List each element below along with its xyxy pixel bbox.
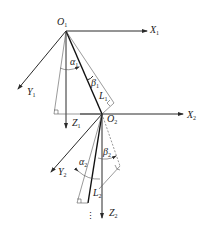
l1-offset-line [66, 31, 114, 103]
frame-1 [18, 31, 147, 128]
label-z1: Z1 [72, 117, 81, 129]
label-x2: X2 [186, 109, 196, 121]
right-angle-marker-2b [115, 165, 120, 170]
label-l1: L1 [98, 90, 108, 102]
label-y2: Y2 [58, 166, 67, 178]
label-x1: X1 [149, 24, 159, 36]
alpha2-arc [78, 171, 100, 179]
label-o1: O1 [57, 16, 67, 28]
label-alpha2: α2 [79, 156, 87, 168]
label-l2: L2 [92, 187, 102, 199]
continuation-dots: ⋮ [86, 211, 95, 221]
label-o2: O2 [107, 113, 117, 125]
frame-2: ⋮ [51, 114, 183, 221]
label-y1: Y1 [27, 86, 36, 98]
link-1 [66, 31, 102, 114]
label-beta2: β2 [102, 146, 111, 158]
kinematic-diagram: O1 X1 Y1 Z1 α1 β1 L1 ⋮ O2 X2 Y2 Z2 α2 β2… [0, 0, 206, 230]
label-z2: Z2 [109, 207, 118, 219]
